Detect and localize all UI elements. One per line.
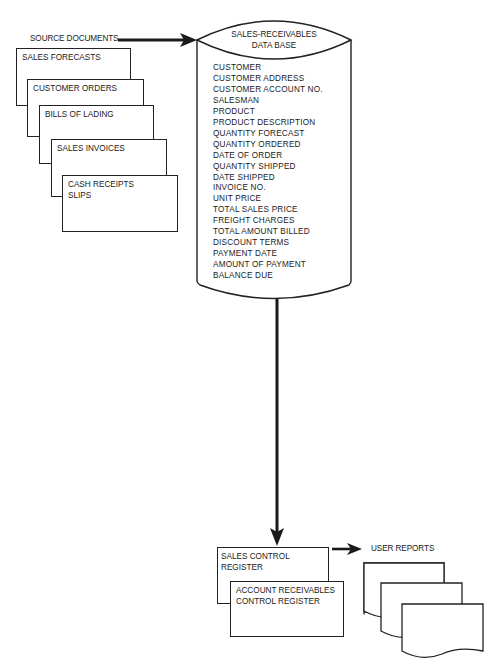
arrow-to-registers	[270, 299, 284, 546]
arrow-to-database	[118, 33, 197, 47]
field-item: CUSTOMER ACCOUNT NO.	[213, 85, 323, 96]
document-cash-receipts-slips: CASH RECEIPTS SLIPS	[62, 175, 178, 232]
field-item: DATE OF ORDER	[213, 151, 323, 162]
field-item: AMOUNT OF PAYMENT	[213, 260, 323, 271]
field-item: FREIGHT CHARGES	[213, 216, 323, 227]
field-item: TOTAL SALES PRICE	[213, 205, 323, 216]
field-item: UNIT PRICE	[213, 194, 323, 205]
document-label: CUSTOMER ORDERS	[33, 84, 117, 95]
field-item: DISCOUNT TERMS	[213, 238, 323, 249]
document-label: CASH RECEIPTS SLIPS	[68, 180, 134, 201]
document-label: SALES INVOICES	[57, 144, 125, 155]
field-item: INVOICE NO.	[213, 183, 323, 194]
report-page-3	[402, 604, 483, 657]
field-item: PRODUCT DESCRIPTION	[213, 118, 323, 129]
field-item: DATE SHIPPED	[213, 173, 323, 184]
source-documents-label: SOURCE DOCUMENTS	[30, 34, 118, 45]
field-item: CUSTOMER ADDRESS	[213, 74, 323, 85]
register-label: ACCOUNT RECEIVABLES CONTROL REGISTER	[236, 586, 335, 607]
database-title: SALES-RECEIVABLES DATA BASE	[210, 30, 338, 51]
field-item: BALANCE DUE	[213, 271, 323, 282]
database-field-list: CUSTOMER CUSTOMER ADDRESS CUSTOMER ACCOU…	[213, 63, 323, 282]
register-label: SALES CONTROL REGISTER	[221, 552, 290, 573]
field-item: QUANTITY SHIPPED	[213, 162, 323, 173]
account-receivables-control-register: ACCOUNT RECEIVABLES CONTROL REGISTER	[230, 581, 344, 637]
field-item: QUANTITY FORECAST	[213, 129, 323, 140]
document-label: BILLS OF LADING	[45, 110, 114, 121]
document-label: SALES FORECASTS	[22, 53, 101, 64]
field-item: SALESMAN	[213, 96, 323, 107]
database-title-line1: SALES-RECEIVABLES	[210, 30, 338, 41]
field-item: CUSTOMER	[213, 63, 323, 74]
user-reports-label: USER REPORTS	[371, 544, 434, 555]
user-report-pages	[364, 563, 483, 657]
field-item: QUANTITY ORDERED	[213, 140, 323, 151]
field-item: PRODUCT	[213, 107, 323, 118]
arrow-to-user-reports	[332, 543, 362, 555]
database-title-line2: DATA BASE	[210, 41, 338, 52]
field-item: TOTAL AMOUNT BILLED	[213, 227, 323, 238]
field-item: PAYMENT DATE	[213, 249, 323, 260]
